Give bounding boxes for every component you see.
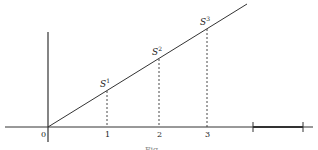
point-label-s3: S3 (200, 15, 210, 27)
line-s (48, 4, 247, 127)
tick-label-2: 2 (157, 130, 162, 139)
figure-caption: Fig. (145, 145, 161, 150)
tick-label-0: 0 (41, 130, 46, 139)
tick-label-1: 1 (105, 130, 110, 139)
tick-label-3: 3 (205, 130, 210, 139)
point-label-s1: S1 (100, 77, 110, 89)
point-label-s2: S2 (152, 45, 162, 57)
diagram-figure: S1 S2 S3 0 1 2 3 Fig. (0, 0, 318, 150)
